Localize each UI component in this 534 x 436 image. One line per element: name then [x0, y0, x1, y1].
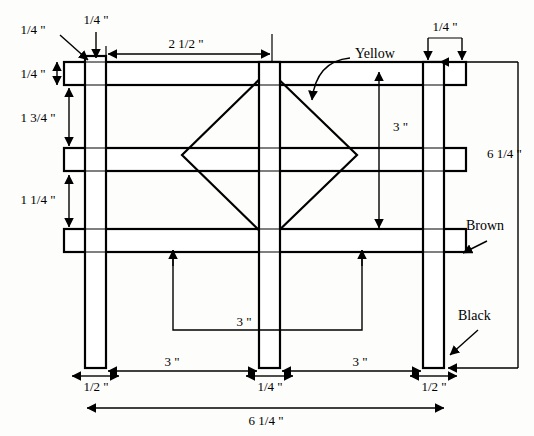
dim-label-diamond-height: 3 " [393, 119, 408, 134]
dim-label-bay-left: 3 " [164, 354, 179, 369]
dim-label-right-post-width: 1/4 " [432, 19, 457, 34]
dim-label-rail-thickness: 1/4 " [20, 66, 45, 81]
dim-leader-post-top-overhang [60, 35, 88, 60]
callout-label-brown: Brown [466, 218, 504, 233]
dim-label-mid-rail-to-bottom-rail: 1 1/4 " [21, 192, 56, 207]
dim-label-top-rail-to-mid-rail: 1 3/4 " [21, 110, 56, 125]
left-post [85, 56, 106, 368]
dim-label-left-post-to-center-post: 2 1/2 " [169, 36, 204, 51]
dim-label-post-top-overhang: 1/4 " [20, 22, 45, 37]
fence-panel-drawing: 1/4 " 1/4 " 2 1/2 " 1/4 " 1/4 " 1 3/4 " … [0, 0, 534, 436]
dim-label-right-post-thickness: 1/2 " [421, 379, 446, 394]
callout-label-yellow: Yellow [355, 46, 396, 61]
dim-label-post-width-top: 1/4 " [83, 12, 108, 27]
dim-label-center-post-thickness: 1/4 " [257, 379, 282, 394]
dim-label-bay-right: 3 " [352, 354, 367, 369]
dim-label-rail-span-inner: 3 " [236, 314, 251, 329]
right-post [423, 62, 444, 368]
callout-label-black: Black [458, 308, 491, 323]
dim-label-left-post-thickness: 1/2 " [83, 379, 108, 394]
center-post [259, 62, 280, 368]
dim-label-overall-width: 6 1/4 " [249, 413, 284, 428]
dim-label-overall-height: 6 1/4 " [487, 146, 522, 161]
leader-black-callout [450, 330, 478, 355]
technical-drawing-canvas: 1/4 " 1/4 " 2 1/2 " 1/4 " 1/4 " 1 3/4 " … [0, 0, 534, 436]
